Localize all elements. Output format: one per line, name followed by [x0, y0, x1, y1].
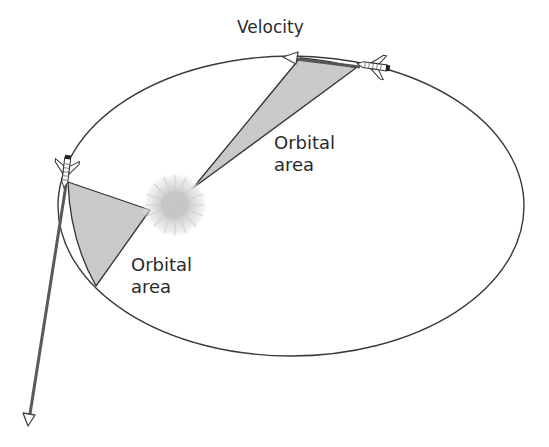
sun-icon	[141, 171, 209, 239]
orbital-area-left-line2: area	[131, 276, 171, 297]
velocity-label: Velocity	[237, 17, 304, 37]
arrowhead-icon	[283, 52, 298, 64]
arrowhead-icon	[23, 413, 35, 426]
orbital-area-top-line2: area	[274, 154, 314, 175]
orbit-diagram: Velocity Orbital area Orbital area	[0, 0, 549, 447]
orbital-area-left-label: Orbital area	[131, 254, 198, 297]
velocity-arrow-long	[23, 185, 66, 426]
space-shuttle-icon	[355, 52, 391, 80]
orbital-area-top-line1: Orbital	[274, 132, 335, 153]
orbital-area-top-label: Orbital area	[274, 132, 341, 175]
orbital-area-left-line1: Orbital	[131, 254, 192, 275]
